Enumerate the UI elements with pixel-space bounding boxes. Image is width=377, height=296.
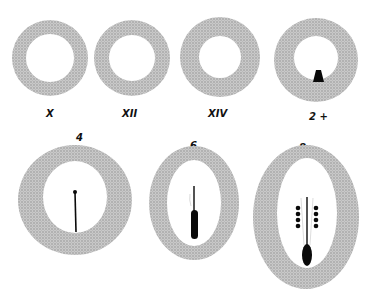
- ellipse-4: [18, 145, 132, 255]
- figure-canvas: X XII XIV 2 + 4 6 8: [0, 0, 377, 296]
- dark-triangle-mark: [313, 70, 324, 82]
- ring-x: [12, 20, 88, 96]
- bead-row-left: [296, 206, 301, 229]
- ring-xii: [94, 20, 170, 96]
- bead-row-right: [314, 206, 319, 229]
- label-2-plus: 2 +: [309, 111, 328, 122]
- label-4: 4: [75, 132, 83, 143]
- ring-xiv: [180, 17, 260, 97]
- ellipse-6: [149, 146, 239, 260]
- label-x: X: [45, 108, 55, 119]
- ring-2-plus: [274, 18, 358, 102]
- label-xiv: XIV: [207, 108, 228, 119]
- label-xii: XII: [121, 108, 137, 119]
- ellipse-8: [253, 145, 359, 289]
